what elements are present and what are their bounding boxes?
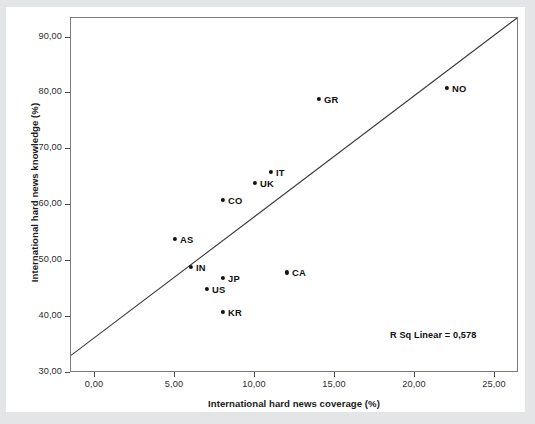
page-edge-left	[0, 0, 6, 424]
regression-line	[71, 18, 517, 355]
data-point-label: CA	[292, 267, 306, 278]
data-point-label: US	[212, 284, 225, 295]
x-axis-tick	[414, 372, 415, 377]
x-axis-tick	[174, 372, 175, 377]
x-axis-tick	[494, 372, 495, 377]
data-point-label: AS	[180, 233, 193, 244]
data-point-label: IN	[196, 261, 206, 272]
r-squared-annotation: R Sq Linear = 0,578	[390, 330, 476, 340]
page-edge-right	[525, 0, 535, 424]
y-axis-tick-label: 90,00	[20, 31, 62, 41]
data-point-label: KR	[228, 306, 242, 317]
x-axis-tick-label: 5,00	[151, 379, 197, 389]
y-axis-tick	[65, 372, 70, 373]
x-axis-tick-label: 0,00	[71, 379, 117, 389]
y-axis-tick-label: 70,00	[20, 142, 62, 152]
y-axis-tick-label: 30,00	[20, 366, 62, 376]
x-axis-tick-label: 20,00	[391, 379, 437, 389]
scatter-plot-figure: 30,0040,0050,0060,0070,0080,0090,00 0,00…	[0, 0, 535, 424]
y-axis-title: International hard news knowledge (%)	[29, 13, 40, 373]
y-axis-tick-label: 80,00	[20, 86, 62, 96]
regression-line-canvas	[71, 18, 517, 371]
data-point-label: GR	[324, 94, 338, 105]
data-point-label: CO	[228, 194, 242, 205]
x-axis-tick	[334, 372, 335, 377]
page-edge-bottom	[0, 412, 535, 424]
x-axis-tick-label: 25,00	[471, 379, 517, 389]
data-point-label: NO	[452, 82, 466, 93]
x-axis-tick	[94, 372, 95, 377]
data-point-label: IT	[276, 166, 285, 177]
x-axis-tick	[254, 372, 255, 377]
x-axis-title: International hard news coverage (%)	[70, 398, 518, 409]
y-axis-tick-label: 60,00	[20, 198, 62, 208]
y-axis-tick-label: 50,00	[20, 254, 62, 264]
y-axis-tick-label: 40,00	[20, 310, 62, 320]
page-edge-top	[0, 0, 535, 7]
x-axis-tick-label: 15,00	[311, 379, 357, 389]
data-point-label: UK	[260, 177, 274, 188]
plot-area: ASINUSJPKRCOUKITCAGRNO	[70, 17, 518, 372]
x-axis-tick-label: 10,00	[231, 379, 277, 389]
data-point-label: JP	[228, 272, 240, 283]
